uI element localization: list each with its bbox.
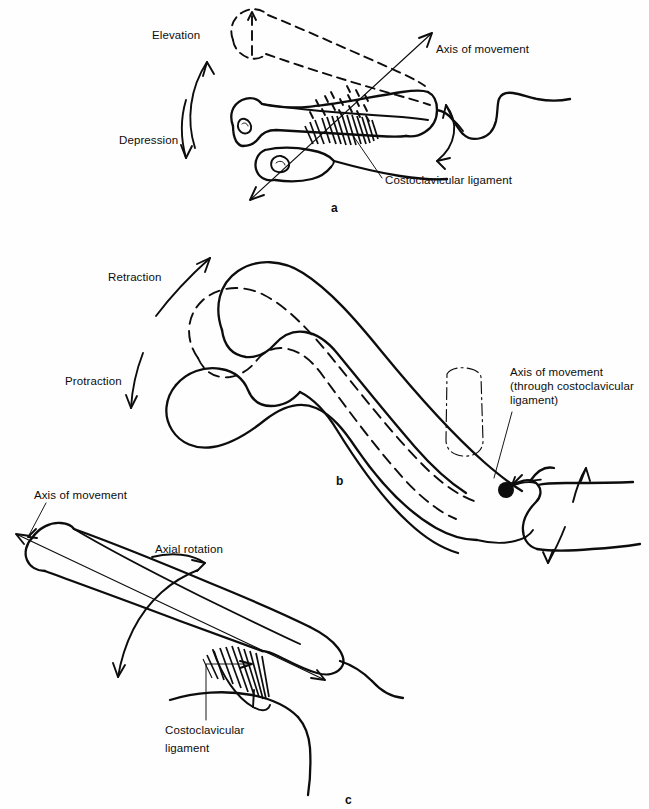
label-axis-of-movement-c: Axis of movement xyxy=(34,489,127,503)
label-protraction: Protraction xyxy=(65,375,122,389)
label-axis-of-movement-b-line1: Axis of movement xyxy=(510,366,603,380)
panel-b-axis-leader xyxy=(494,412,512,478)
label-axis-of-movement-b-line2: (through costoclavicular xyxy=(510,380,634,394)
label-costoclavicular-ligament-a: Costoclavicular ligament xyxy=(385,174,512,188)
panel-a-elevation-arrow xyxy=(190,62,214,148)
label-costoclavicular-c-line2: ligament xyxy=(165,742,209,756)
panel-a-drawing xyxy=(181,9,570,200)
label-retraction: Retraction xyxy=(108,271,161,285)
panel-letter-c: c xyxy=(345,793,352,807)
label-axis-of-movement-b-line3: ligament) xyxy=(510,394,558,408)
label-depression: Depression xyxy=(119,134,178,148)
panel-a-ligament-leader xyxy=(352,134,382,178)
panel-c-axial-rotation-arrow xyxy=(113,554,205,677)
label-costoclavicular-c-line1: Costoclavicular xyxy=(165,724,244,738)
panel-b-retraction-arrow xyxy=(156,258,210,316)
panel-a-elevated-clavicle-dashed xyxy=(231,9,430,105)
label-axial-rotation: Axial rotation xyxy=(155,543,223,557)
anatomy-figure: Elevation Depression Axis of movement Co… xyxy=(0,0,649,809)
panel-c-costoclavicular-hatch xyxy=(203,646,270,710)
panel-a-sternum xyxy=(437,93,570,139)
panel-b-clavicle-dashed xyxy=(189,288,477,519)
panel-b-protraction-arrow xyxy=(126,353,143,408)
panel-a-rotation-arrow xyxy=(437,105,454,169)
panel-b-axis-down-arrow xyxy=(543,527,565,563)
panel-letter-a: a xyxy=(331,201,338,215)
label-axis-of-movement-a: Axis of movement xyxy=(436,43,529,57)
panel-b-clavicle-protracted xyxy=(166,368,477,553)
panel-letter-b: b xyxy=(336,474,343,488)
label-elevation: Elevation xyxy=(152,29,200,43)
panel-b-axis-up-arrow xyxy=(573,468,590,502)
panel-b-sternum xyxy=(477,468,640,551)
panel-b-drawing xyxy=(126,258,640,563)
panel-b-clavicle-retracted xyxy=(218,262,522,493)
